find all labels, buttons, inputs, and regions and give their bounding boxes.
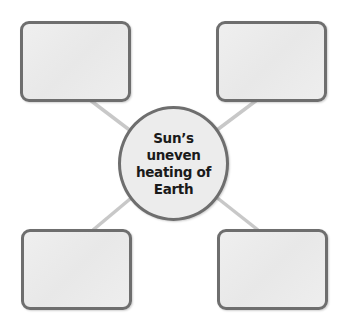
outer-box-bottom-right[interactable]	[217, 229, 328, 310]
outer-box-top-right[interactable]	[216, 21, 327, 102]
center-concept-circle: Sun’s uneven heating of Earth	[118, 106, 229, 221]
center-label-line-3: Earth	[129, 181, 219, 198]
center-concept-label: Sun’s uneven heating of Earth	[129, 130, 219, 198]
center-label-line-2: heating of	[129, 164, 219, 181]
outer-box-top-left[interactable]	[20, 21, 131, 102]
outer-box-bottom-left[interactable]	[21, 229, 132, 310]
center-label-line-1: Sun’s uneven	[129, 130, 219, 164]
